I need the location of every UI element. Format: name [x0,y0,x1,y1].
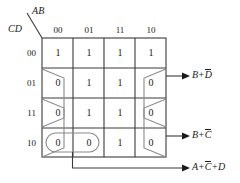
cell-r2-c3: 0 [135,108,167,118]
cell-r3-c1: 0 [73,138,105,148]
output-arrowheads [182,72,190,171]
row-variable-label: CD [8,24,22,34]
cell-r2-c2: 1 [104,108,136,118]
axis-divider-diagonal [27,13,42,38]
row-header-3: 10 [14,139,36,148]
arrowhead-b-plus-cbar [182,132,190,139]
operator-plus-1: + [198,161,205,172]
output-label-b-plus-dbar: B+D [192,70,212,80]
arrowhead-b-plus-dbar [182,72,190,79]
column-header-0: 00 [42,26,74,35]
cell-r1-c2: 1 [104,78,136,88]
column-header-1: 01 [73,26,105,35]
cell-r3-c2: 1 [104,138,136,148]
cell-r0-c0: 1 [42,48,74,58]
term-d: D [218,161,225,172]
row-header-1: 01 [14,79,36,88]
output-label-b-plus-cbar: B+C [192,130,211,140]
output-label-a-plus-cbar-plus-d: A+C+D [192,162,225,172]
cell-r2-c1: 1 [73,108,105,118]
operator-plus: + [198,129,205,140]
karnaugh-map-diagram: AB CD 00 01 11 10 00 01 11 10 1 1 1 1 0 … [0,0,240,183]
cell-r1-c3: 0 [135,78,167,88]
column-header-2: 11 [104,26,136,35]
operator-plus: + [198,69,205,80]
cell-r0-c2: 1 [104,48,136,58]
column-variable-label: AB [32,6,45,16]
cell-r0-c1: 1 [73,48,105,58]
term-d-bar: D [205,70,212,80]
arrowhead-a-plus-cbar-plus-d [182,164,190,171]
cell-r2-c0: 0 [42,108,74,118]
cell-r3-c3: 0 [135,138,167,148]
cell-r1-c0: 0 [42,78,74,88]
cell-r1-c1: 1 [73,78,105,88]
term-c-bar: C [205,162,212,172]
cell-r0-c3: 1 [135,48,167,58]
term-c-bar: C [205,130,212,140]
row-header-2: 11 [14,109,36,118]
row-header-0: 00 [14,49,36,58]
column-header-3: 10 [135,26,167,35]
cell-r3-c0: 0 [42,138,74,148]
